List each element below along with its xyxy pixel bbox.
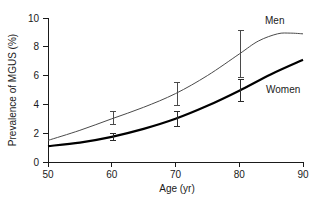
x-tick-label-80: 80 — [234, 169, 246, 180]
y-tick-label-10: 10 — [28, 13, 40, 24]
y-axis-title: Prevalence of MGUS (%) — [7, 34, 18, 146]
y-tick-label-8: 8 — [33, 41, 39, 52]
x-tick-label-50: 50 — [42, 169, 54, 180]
axis-group — [48, 18, 303, 162]
y-tick-label-0: 0 — [33, 157, 39, 168]
chart-container: 0 2 4 6 8 10 50 60 70 80 90 Age (yr) Pre… — [0, 0, 318, 198]
series-women — [48, 60, 303, 146]
x-tick-label-70: 70 — [170, 169, 182, 180]
men-error-bars — [110, 31, 244, 125]
x-tick-group: 50 60 70 80 90 — [42, 162, 309, 180]
men-curve-line — [48, 33, 303, 140]
series-men — [48, 31, 303, 140]
y-tick-label-6: 6 — [33, 70, 39, 81]
series-label-women: Women — [266, 84, 300, 95]
y-tick-label-2: 2 — [33, 128, 39, 139]
chart-canvas: 0 2 4 6 8 10 50 60 70 80 90 Age (yr) Pre… — [0, 0, 318, 198]
x-tick-label-90: 90 — [297, 169, 309, 180]
y-tick-group: 0 2 4 6 8 10 — [28, 13, 48, 168]
x-tick-label-60: 60 — [106, 169, 118, 180]
women-curve-line — [48, 60, 303, 146]
x-axis-title: Age (yr) — [159, 183, 195, 194]
series-label-men: Men — [265, 15, 284, 26]
y-tick-label-4: 4 — [33, 99, 39, 110]
